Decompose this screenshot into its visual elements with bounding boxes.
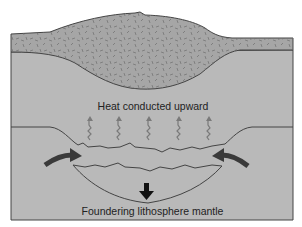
lithosphere-diagram bbox=[0, 0, 302, 227]
heat-label: Heat conducted upward bbox=[88, 100, 218, 112]
foundering-label: Foundering lithosphere mantle bbox=[70, 205, 235, 217]
